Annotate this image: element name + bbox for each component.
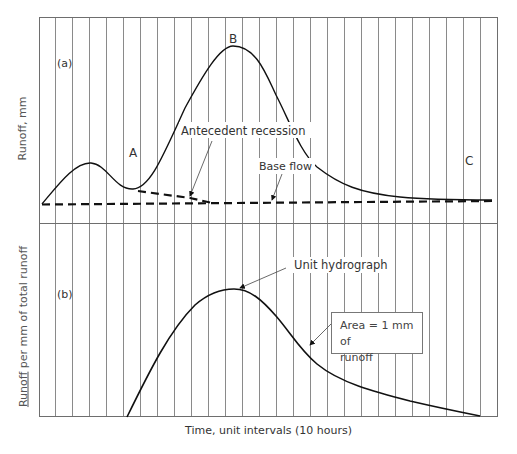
panel-b-frame bbox=[40, 224, 498, 417]
panel-a-frame bbox=[40, 18, 498, 224]
panel-b-ylabel-rest: per mm of total runoff bbox=[17, 246, 30, 372]
base-flow-label: Base flow bbox=[259, 160, 312, 173]
area-callout-line2: runoff bbox=[340, 350, 422, 366]
panel-a-tag: (a) bbox=[57, 57, 72, 70]
panel-a-ylabel-text: Runoff, mm bbox=[16, 97, 29, 161]
point-label-b: B bbox=[229, 32, 237, 46]
panel-b-ylabel-underlined: Runoff bbox=[17, 372, 30, 407]
panel-b-tag: (b) bbox=[57, 288, 73, 301]
point-label-c: C bbox=[465, 154, 473, 168]
area-callout-line1: Area = 1 mm of bbox=[340, 318, 422, 350]
unit-hydrograph-label: Unit hydrograph bbox=[294, 258, 388, 272]
panel-b-ylabel: Runoff per mm of total runoff bbox=[17, 242, 30, 412]
point-label-a: A bbox=[129, 146, 138, 160]
antecedent-recession-label: Antecedent recession bbox=[181, 124, 305, 138]
hydrograph-figure: (a) A B C Antecedent recession Base flow… bbox=[0, 0, 517, 454]
area-callout-box: Area = 1 mm of runoff bbox=[331, 312, 423, 354]
unit-hydrograph-curve bbox=[127, 289, 480, 417]
x-axis-label: Time, unit intervals (10 hours) bbox=[0, 424, 517, 437]
panel-a-ylabel: Runoff, mm bbox=[16, 89, 29, 169]
base-flow-line bbox=[42, 201, 494, 205]
unit-hydrograph-arrow bbox=[240, 268, 286, 288]
